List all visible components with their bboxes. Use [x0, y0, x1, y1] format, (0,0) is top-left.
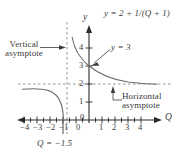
horizontal-asymptote-leader-arrow: [111, 86, 115, 93]
x-tick-label--1: −1: [59, 123, 68, 132]
y-tick-label-2: 2: [79, 79, 83, 88]
x-tick-label--4: −4: [20, 123, 29, 132]
equation-label: y = 2 + 1/(Q + 1): [104, 9, 170, 18]
horizontal-asymptote-annotation: Horizontal asymptote: [122, 92, 177, 111]
y-tick-label-4: 4: [79, 43, 83, 52]
x-tick-label-1: 1: [99, 123, 103, 132]
x-axis-label: Q: [165, 113, 172, 123]
y-axis-label: y: [83, 13, 87, 23]
x-tick-label-3: 3: [125, 123, 129, 132]
y-equals-3-leader-arrow: [91, 62, 100, 66]
caption-label: Q = −1.5: [37, 139, 72, 148]
y-equals-3-label: y = 3: [111, 43, 131, 52]
x-tick-label-0: 0: [76, 123, 80, 132]
x-tick-label--2: −2: [46, 123, 55, 132]
plot-canvas: [0, 0, 178, 157]
y-equals-3-leader: [94, 50, 110, 64]
y-tick-label-3: 3: [79, 61, 83, 70]
origin-label: 0: [80, 113, 84, 122]
graph-figure: y = 2 + 1/(Q + 1) y Q y = 3 Vertical asy…: [0, 0, 178, 157]
horizontal-asymptote-line2: asymptote: [122, 101, 177, 110]
curve-left-branch: [23, 89, 64, 121]
y-tick-label-1: 1: [79, 97, 83, 106]
x-tick-label--3: −3: [33, 123, 42, 132]
x-axis-arrow-right: [154, 117, 162, 123]
x-tick-label-2: 2: [112, 123, 116, 132]
y-axis-arrow-up: [86, 25, 92, 33]
vertical-asymptote-leader-arrow: [59, 45, 66, 50]
x-tick-label-4: 4: [138, 123, 142, 132]
vertical-asymptote-annotation: Vertical asymptote: [3, 40, 45, 59]
vertical-asymptote-line2: asymptote: [3, 49, 45, 58]
